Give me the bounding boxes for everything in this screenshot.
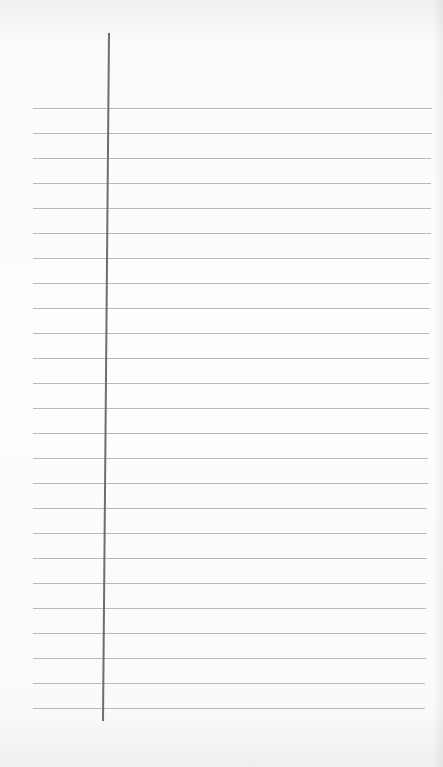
ruled-line (33, 283, 430, 284)
ruled-line (33, 508, 427, 509)
ruled-line (33, 408, 429, 409)
ruled-line (33, 358, 429, 359)
margin-line (102, 33, 110, 721)
ruled-line (33, 383, 429, 384)
ruled-line (33, 583, 426, 584)
ruled-line (33, 208, 431, 209)
ruled-line (33, 308, 430, 309)
ruled-line (33, 483, 428, 484)
ruled-line (33, 558, 427, 559)
ruled-line (33, 233, 431, 234)
ruled-line (33, 633, 426, 634)
ruled-line (33, 183, 431, 184)
ruled-line (33, 683, 425, 684)
ruled-line (33, 108, 432, 109)
ruled-line (33, 458, 428, 459)
ruled-line (33, 433, 428, 434)
ruled-line (33, 608, 426, 609)
paper-edge-shadow (433, 0, 443, 767)
ruled-line (33, 258, 430, 259)
lined-paper-sheet (0, 0, 443, 767)
ruled-line (33, 533, 427, 534)
ruled-line (33, 658, 426, 659)
ruled-line (33, 333, 429, 334)
ruled-line (33, 158, 431, 159)
ruled-line (33, 708, 425, 709)
ruled-line (33, 133, 432, 134)
